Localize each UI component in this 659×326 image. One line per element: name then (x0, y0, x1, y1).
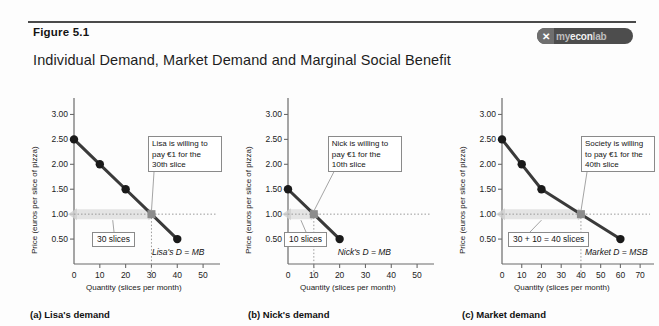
x-axis-title: Quantity (slices per month) (514, 283, 610, 292)
x-tick-label: 20 (531, 270, 551, 280)
logo-word-my: my (556, 31, 570, 42)
x-tick-label: 50 (407, 270, 427, 280)
x-axis-title: Quantity (slices per month) (86, 283, 182, 292)
y-tick-label: 1.50 (38, 184, 68, 194)
x-tick-label: 40 (167, 270, 187, 280)
panel-caption-b: (b) Nick's demand (248, 309, 329, 320)
myeconlab-mark-icon: ✕ (537, 28, 554, 44)
y-tick-label: 1.00 (466, 209, 496, 219)
x-tick-label: 10 (90, 270, 110, 280)
x-tick-label: 40 (571, 270, 591, 280)
y-tick-label: 2.00 (38, 159, 68, 169)
x-tick-label: 60 (610, 270, 630, 280)
figure-title: Individual Demand, Market Demand and Mar… (33, 52, 451, 68)
curve-label: Market D = MSB (585, 247, 648, 257)
x-tick-label: 40 (381, 270, 401, 280)
x-tick-label: 50 (193, 270, 213, 280)
y-tick-label: 3.00 (38, 109, 68, 119)
quantity-tag: 30 slices (92, 232, 135, 247)
y-tick-label: 1.50 (466, 184, 496, 194)
panel-caption-a: (a) Lisa's demand (30, 309, 110, 320)
y-tick-label: 0.50 (466, 234, 496, 244)
x-tick-label: 30 (551, 270, 571, 280)
y-tick-label: 1.50 (252, 184, 282, 194)
chart-panel-lisa: (a) Lisa's demand 0.501.001.502.002.503.… (8, 84, 226, 326)
quantity-tag: 10 slices (284, 232, 327, 247)
y-tick-label: 2.50 (466, 134, 496, 144)
y-tick-label: 0.50 (252, 234, 282, 244)
myeconlab-wordmark: myeconlab (554, 31, 606, 42)
x-axis-title: Quantity (slices per month) (300, 283, 396, 292)
x-tick-label: 10 (304, 270, 324, 280)
callout-box: Society is willing to pay €1 for the 40t… (581, 136, 655, 172)
y-axis-title: Price (euros per slice of pizza) (458, 146, 467, 254)
y-tick-label: 2.00 (466, 159, 496, 169)
x-tick-label: 0 (492, 270, 512, 280)
chart-panel-market: (c) Market demand 0.501.001.502.002.503.… (440, 84, 659, 326)
x-tick-label: 70 (630, 270, 650, 280)
logo-word-lab: lab (593, 31, 607, 42)
x-tick-label: 50 (591, 270, 611, 280)
panel-caption-c: (c) Market demand (462, 309, 546, 320)
x-tick-label: 0 (64, 270, 84, 280)
callout-box: Lisa is willing to pay €1 for the 30th s… (148, 136, 222, 172)
x-tick-label: 20 (116, 270, 136, 280)
x-tick-label: 20 (330, 270, 350, 280)
logo-word-econ: econ (570, 31, 593, 42)
y-tick-label: 1.00 (38, 209, 68, 219)
x-tick-label: 30 (355, 270, 375, 280)
y-tick-label: 2.50 (252, 134, 282, 144)
header-divider (28, 21, 636, 23)
curve-label: Nick's D = MB (338, 247, 391, 257)
y-tick-label: 1.00 (252, 209, 282, 219)
y-tick-label: 0.50 (38, 234, 68, 244)
x-tick-label: 30 (141, 270, 161, 280)
y-tick-label: 3.00 (466, 109, 496, 119)
y-tick-label: 2.00 (252, 159, 282, 169)
y-tick-label: 2.50 (38, 134, 68, 144)
x-tick-label: 0 (278, 270, 298, 280)
y-axis-title: Price (euros per slice of pizza) (244, 146, 253, 254)
y-tick-label: 3.00 (252, 109, 282, 119)
figure-container: Figure 5.1 Individual Demand, Market Dem… (0, 0, 659, 326)
y-axis-title: Price (euros per slice of pizza) (30, 146, 39, 254)
quantity-tag: 30 + 10 = 40 slices (508, 232, 589, 247)
myeconlab-logo[interactable]: ✕ myeconlab (537, 28, 633, 44)
figure-number: Figure 5.1 (33, 26, 89, 38)
chart-panel-nick: (b) Nick's demand 0.501.001.502.002.503.… (226, 84, 440, 326)
curve-label: Lisa's D = MB (152, 247, 204, 257)
x-tick-label: 10 (512, 270, 532, 280)
callout-box: Nick is willing to pay €1 for the 10th s… (328, 136, 402, 172)
